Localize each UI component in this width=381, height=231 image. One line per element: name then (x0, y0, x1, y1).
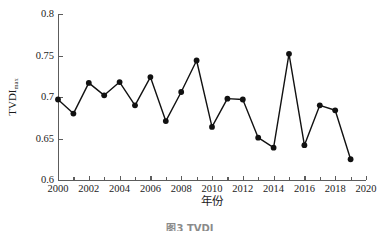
data-point-marker: 2001: 0.68 (71, 111, 77, 117)
data-point-marker: 2004: 0.718 (117, 79, 123, 85)
data-point-marker: 2011: 0.698 (225, 96, 231, 102)
data-series-tvdi-max: 2000: 0.6972001: 0.682002: 0.7172003: 0.… (58, 14, 366, 180)
y-tick-label: 0.8 (41, 9, 54, 20)
y-axis-title-text: TVDI (6, 89, 18, 115)
figure-caption: 图3 TVDI (166, 224, 213, 231)
y-axis-title-subscript: max (12, 78, 19, 89)
x-tick-label: 2018 (325, 184, 346, 195)
data-point-marker: 2016: 0.642 (302, 142, 308, 148)
data-point-marker: 2012: 0.697 (240, 97, 246, 103)
data-point-marker: 2006: 0.724 (148, 74, 154, 80)
data-point-marker: 2000: 0.697 (55, 97, 61, 103)
data-point-marker: 2018: 0.684 (332, 107, 338, 113)
y-tick-mark (58, 180, 63, 181)
y-tick-label: 0.75 (36, 50, 54, 61)
y-axis-title: TVDImax (7, 78, 18, 115)
data-point-marker: 2008: 0.706 (178, 89, 184, 95)
x-tick-label: 2016 (294, 184, 315, 195)
data-point-marker: 2014: 0.639 (271, 145, 277, 151)
x-tick-label: 2012 (232, 184, 253, 195)
x-axis-line (58, 180, 366, 181)
data-point-marker: 2017: 0.69 (317, 102, 323, 108)
figure-container: TVDImax 0.60.650.70.750.8 20002002200420… (0, 0, 381, 231)
x-tick-label: 2002 (78, 184, 99, 195)
data-point-marker: 2009: 0.744 (194, 58, 200, 64)
y-tick-label: 0.65 (36, 133, 54, 144)
x-axis-title: 年份 (201, 196, 223, 208)
data-point-marker: 2003: 0.702 (101, 92, 107, 98)
x-tick-label: 2008 (171, 184, 192, 195)
y-tick-label: 0.7 (41, 92, 54, 103)
x-tick-label: 2004 (109, 184, 130, 195)
x-tick-label: 2014 (263, 184, 284, 195)
data-point-marker: 2002: 0.717 (86, 80, 92, 86)
x-tick-label: 2006 (140, 184, 161, 195)
data-point-marker: 2019: 0.625 (348, 156, 354, 162)
data-point-marker: 2013: 0.651 (255, 135, 261, 141)
plot-area: 0.60.650.70.750.8 2000200220042006200820… (58, 14, 366, 180)
x-tick-mark (366, 176, 367, 181)
x-tick-label: 2020 (356, 184, 377, 195)
x-tick-label: 2000 (48, 184, 69, 195)
x-tick-label: 2010 (202, 184, 223, 195)
data-point-marker: 2007: 0.671 (163, 118, 169, 124)
data-point-marker: 2010: 0.664 (209, 124, 215, 130)
data-point-marker: 2005: 0.69 (132, 102, 138, 108)
data-point-marker: 2015: 0.752 (286, 51, 292, 57)
